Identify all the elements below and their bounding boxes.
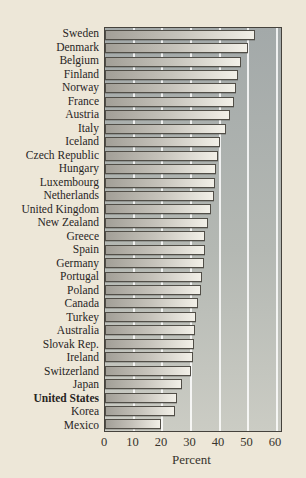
x-tick-label: 30 [183, 435, 196, 450]
bar-row [105, 28, 281, 41]
bar-row [105, 391, 281, 404]
country-label: Spain [0, 243, 99, 257]
plot-area [104, 27, 282, 432]
bar-row [105, 377, 281, 390]
bar-row [105, 176, 281, 189]
x-tick-label: 50 [240, 435, 253, 450]
country-label: France [0, 95, 99, 109]
bar-row [105, 297, 281, 310]
bar-ireland [105, 352, 193, 362]
bar-row [105, 55, 281, 68]
bar-norway [105, 83, 236, 93]
bar-czech-republic [105, 151, 218, 161]
country-label: Iceland [0, 135, 99, 149]
bar-portugal [105, 272, 202, 282]
bar-turkey [105, 312, 196, 322]
country-label: Poland [0, 284, 99, 298]
country-label: Turkey [0, 311, 99, 325]
country-label: Switzerland [0, 365, 99, 379]
bar-slovak-rep- [105, 339, 194, 349]
country-label: Netherlands [0, 189, 99, 203]
bar-row [105, 203, 281, 216]
country-label: Italy [0, 122, 99, 136]
bar-row [105, 122, 281, 135]
bar-row [105, 310, 281, 323]
country-label: Portugal [0, 270, 99, 284]
bar-row [105, 82, 281, 95]
bar-japan [105, 379, 182, 389]
bar-united-kingdom [105, 204, 211, 214]
bar-united-states [105, 393, 177, 403]
bar-hungary [105, 164, 216, 174]
bar-row [105, 41, 281, 54]
x-tick-label: 40 [212, 435, 225, 450]
country-label: Austria [0, 108, 99, 122]
bar-italy [105, 124, 226, 134]
bar-sweden [105, 30, 255, 40]
x-axis-ticks: 0102030405060 [104, 435, 279, 449]
bar-row [105, 404, 281, 417]
country-label: Belgium [0, 54, 99, 68]
bar-row [105, 364, 281, 377]
bar-france [105, 97, 234, 107]
country-label: Canada [0, 297, 99, 311]
x-tick-label: 0 [101, 435, 107, 450]
country-label: Norway [0, 81, 99, 95]
bar-spain [105, 245, 205, 255]
bar-row [105, 109, 281, 122]
country-label: Greece [0, 230, 99, 244]
bar-row [105, 243, 281, 256]
bar-row [105, 149, 281, 162]
bar-new-zealand [105, 218, 208, 228]
country-label: Mexico [0, 419, 99, 433]
bar-row [105, 230, 281, 243]
bar-row [105, 337, 281, 350]
x-tick-label: 10 [126, 435, 139, 450]
bar-row [105, 95, 281, 108]
country-label: Hungary [0, 162, 99, 176]
bar-row [105, 418, 281, 431]
bar-luxembourg [105, 178, 215, 188]
bar-korea [105, 406, 175, 416]
bar-row [105, 216, 281, 229]
bar-row [105, 324, 281, 337]
country-label: Sweden [0, 27, 99, 41]
bar-row [105, 283, 281, 296]
x-tick-label: 20 [155, 435, 168, 450]
bar-switzerland [105, 366, 191, 376]
bar-poland [105, 285, 201, 295]
category-labels: SwedenDenmarkBelgiumFinlandNorwayFranceA… [0, 27, 99, 432]
bar-canada [105, 298, 198, 308]
bars [105, 28, 281, 431]
bar-row [105, 270, 281, 283]
x-axis-title: Percent [104, 452, 279, 468]
country-label: Korea [0, 405, 99, 419]
bar-greece [105, 231, 205, 241]
bar-row [105, 136, 281, 149]
country-label: Slovak Rep. [0, 338, 99, 352]
bar-iceland [105, 137, 220, 147]
country-label: Luxembourg [0, 176, 99, 190]
country-label: United States [0, 392, 99, 406]
bar-australia [105, 325, 195, 335]
bar-row [105, 68, 281, 81]
bar-row [105, 351, 281, 364]
country-label: New Zealand [0, 216, 99, 230]
tax-percent-bar-chart-figure: SwedenDenmarkBelgiumFinlandNorwayFranceA… [0, 0, 306, 478]
country-label: Denmark [0, 41, 99, 55]
bar-germany [105, 258, 204, 268]
country-label: Germany [0, 257, 99, 271]
bar-austria [105, 110, 230, 120]
bar-belgium [105, 57, 241, 67]
bar-mexico [105, 419, 161, 429]
country-label: Japan [0, 378, 99, 392]
bar-denmark [105, 43, 248, 53]
bar-row [105, 189, 281, 202]
country-label: Ireland [0, 351, 99, 365]
bar-netherlands [105, 191, 214, 201]
bar-row [105, 256, 281, 269]
bar-row [105, 162, 281, 175]
country-label: Czech Republic [0, 149, 99, 163]
country-label: Finland [0, 68, 99, 82]
x-tick-label: 60 [269, 435, 282, 450]
